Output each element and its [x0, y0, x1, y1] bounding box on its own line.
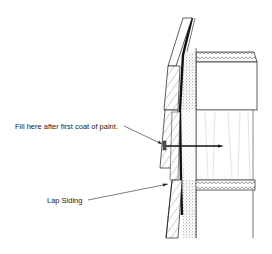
- middle-framing: [196, 110, 253, 180]
- fill-annotation-label: Fill here after first coat of paint.: [15, 122, 118, 131]
- upper-siding-board: [164, 66, 180, 110]
- lap-siding-label: Lap Siding: [47, 196, 82, 205]
- lower-block: [186, 180, 255, 238]
- leader-fill: [124, 126, 162, 144]
- lower-siding-board: [166, 180, 182, 238]
- upper-block: [196, 52, 257, 110]
- leader-lap: [88, 184, 168, 201]
- sheathing: [182, 48, 196, 238]
